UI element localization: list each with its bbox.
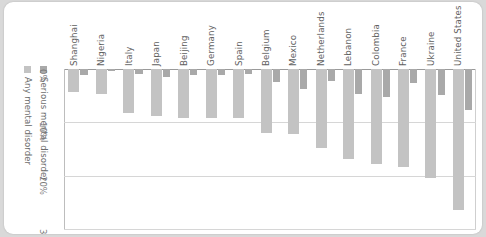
plot-area	[64, 69, 476, 229]
bar-any-italy[interactable]	[123, 69, 134, 113]
bar-any-beijing[interactable]	[178, 69, 189, 118]
bar-any-ukraine[interactable]	[425, 69, 436, 178]
category-label-belgium: Belgium	[261, 2, 274, 66]
bar-any-lebanon[interactable]	[343, 69, 354, 159]
category-label-japan: Japan	[151, 2, 164, 66]
bar-serious-nigeria[interactable]	[108, 69, 115, 71]
bar-any-nigeria[interactable]	[96, 69, 107, 94]
legend-swatch-any	[25, 66, 32, 73]
bar-group-belgium	[256, 69, 283, 229]
bar-serious-united-states[interactable]	[465, 69, 472, 110]
category-label-shanghai: Shanghai	[69, 2, 82, 66]
legend-label-any: Any mental disorder	[23, 77, 33, 165]
bar-serious-shanghai[interactable]	[80, 69, 87, 75]
bar-any-germany[interactable]	[206, 69, 217, 118]
bar-group-france	[394, 69, 421, 229]
bar-group-colombia	[366, 69, 393, 229]
category-label-germany: Germany	[206, 2, 219, 66]
bar-group-japan	[146, 69, 173, 229]
bar-group-germany	[201, 69, 228, 229]
bar-group-united-states	[449, 69, 476, 229]
category-label-mexico: Mexico	[288, 2, 301, 66]
category-label-nigeria: Nigeria	[96, 2, 109, 66]
y-tick-0pct: 0%	[36, 69, 48, 99]
y-tick-20pct: 20%	[36, 176, 48, 206]
category-label-netherlands: Netherlands	[316, 2, 329, 66]
bar-serious-germany[interactable]	[218, 69, 225, 75]
bar-serious-japan[interactable]	[163, 69, 170, 77]
bar-group-shanghai	[64, 69, 91, 229]
bar-any-spain[interactable]	[233, 69, 244, 118]
bar-group-italy	[119, 69, 146, 229]
bar-any-shanghai[interactable]	[68, 69, 79, 92]
bar-any-united-states[interactable]	[453, 69, 464, 210]
bar-group-ukraine	[421, 69, 448, 229]
bar-serious-ukraine[interactable]	[438, 69, 445, 95]
category-label-beijing: Beijing	[179, 2, 192, 66]
bar-serious-beijing[interactable]	[190, 69, 197, 75]
category-label-spain: Spain	[234, 2, 247, 66]
category-label-italy: Italy	[124, 2, 137, 66]
y-tick-30pct: 30%	[36, 229, 48, 234]
chart-card: Any mental disorder Serious mental disor…	[4, 2, 482, 234]
y-tick-10pct: 10%	[36, 122, 48, 152]
category-label-united-states: United States	[453, 2, 466, 66]
bar-any-japan[interactable]	[151, 69, 162, 116]
bar-serious-lebanon[interactable]	[355, 69, 362, 94]
bar-group-nigeria	[91, 69, 118, 229]
bar-serious-italy[interactable]	[135, 69, 142, 74]
category-label-france: France	[398, 2, 411, 66]
bar-group-spain	[229, 69, 256, 229]
category-axis-labels: ShanghaiNigeriaItalyJapanBeijingGermanyS…	[64, 2, 482, 68]
bar-serious-colombia[interactable]	[383, 69, 390, 97]
bar-any-netherlands[interactable]	[316, 69, 327, 148]
bar-group-beijing	[174, 69, 201, 229]
category-label-ukraine: Ukraine	[426, 2, 439, 66]
y-axis-tick-labels: 0%10%20%30%	[48, 62, 64, 232]
bar-serious-belgium[interactable]	[273, 69, 280, 82]
category-label-lebanon: Lebanon	[343, 2, 356, 66]
gridline-30	[64, 229, 476, 230]
bar-any-france[interactable]	[398, 69, 409, 167]
bar-any-belgium[interactable]	[261, 69, 272, 133]
bar-group-lebanon	[339, 69, 366, 229]
legend-item-any-mental-disorder[interactable]: Any mental disorder	[20, 66, 36, 226]
bar-serious-spain[interactable]	[245, 69, 252, 74]
category-label-colombia: Colombia	[371, 2, 384, 66]
bar-serious-france[interactable]	[410, 69, 417, 83]
bar-serious-netherlands[interactable]	[328, 69, 335, 81]
bar-group-mexico	[284, 69, 311, 229]
bar-any-mexico[interactable]	[288, 69, 299, 134]
bar-any-colombia[interactable]	[371, 69, 382, 164]
bar-serious-mexico[interactable]	[300, 69, 307, 89]
bar-group-netherlands	[311, 69, 338, 229]
